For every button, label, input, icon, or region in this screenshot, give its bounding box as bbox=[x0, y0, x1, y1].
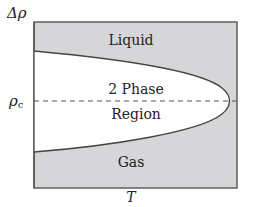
gas-label: Gas bbox=[118, 154, 145, 170]
phase-diagram: Δρ ρc T Liquid 2 Phase Region Gas bbox=[0, 0, 256, 207]
two-phase-label-line2: Region bbox=[111, 106, 161, 122]
two-phase-label-line1: 2 Phase bbox=[108, 81, 164, 97]
y-axis-label: Δρ bbox=[6, 4, 27, 22]
liquid-label: Liquid bbox=[108, 32, 153, 48]
x-axis-label: T bbox=[126, 189, 137, 205]
critical-density-label: ρc bbox=[8, 92, 24, 110]
